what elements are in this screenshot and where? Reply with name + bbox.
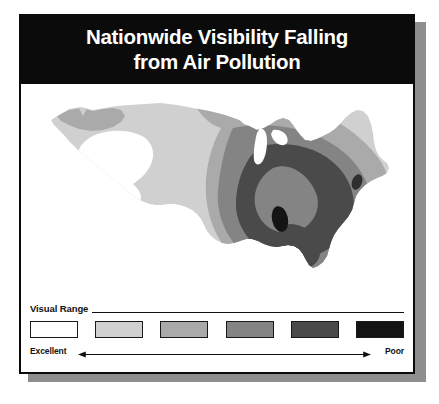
band-good-california-north [47,156,62,178]
legend-swatch-good [160,321,208,338]
legend-swatch-very-poor [356,321,404,338]
page-title: Nationwide Visibility Falling from Air P… [86,24,348,74]
legend-scale-arrow-icon [78,350,371,359]
visibility-band-group [21,84,413,298]
legend-scale-row: Excellent Poor [30,345,404,361]
legend-header: Visual Range [30,298,404,314]
legend-swatch-poor [291,321,339,338]
us-visibility-map [21,84,413,298]
legend-swatches [30,321,404,338]
legend-swatch-very-good [95,321,143,338]
legend: Visual Range Excellent [30,298,404,368]
map-panel: Visual Range Excellent [19,84,415,374]
legend-scale-right-label: Poor [385,346,404,356]
band-excellent-channel [113,196,139,206]
legend-scale-left-label: Excellent [30,346,66,356]
visibility-map-figure: Nationwide Visibility Falling from Air P… [0,0,439,404]
band-good-california-south [58,205,83,234]
legend-title: Visual Range [30,303,92,314]
legend-swatch-fair [226,321,274,338]
lake-superior [241,117,271,125]
legend-swatch-excellent [30,321,78,338]
title-banner: Nationwide Visibility Falling from Air P… [19,14,415,84]
